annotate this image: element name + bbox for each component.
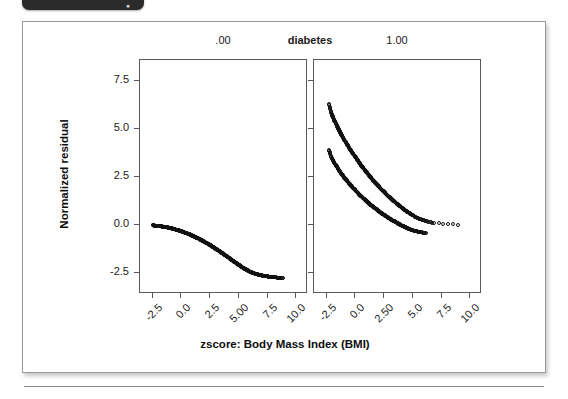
x-tick — [354, 293, 355, 298]
x-tick — [238, 293, 239, 298]
x-tick — [152, 293, 153, 298]
panel-zero — [139, 59, 307, 293]
x-tick — [469, 293, 470, 298]
data-point — [281, 276, 285, 280]
y-tick-label: 5.0 — [95, 121, 129, 133]
x-tick — [180, 293, 181, 298]
data-point — [456, 223, 460, 227]
y-tick-label: 2.5 — [95, 169, 129, 181]
y-tick-label: -2.5 — [95, 265, 129, 277]
data-point — [446, 222, 450, 226]
y-tick-label: 0.0 — [95, 217, 129, 229]
y-tick — [134, 128, 139, 129]
y-tick — [308, 272, 313, 273]
figure-frame: .00-2.50.02.55.07.5-2.50.02.55.007.510.0… — [22, 21, 546, 373]
y-axis-title: Normalized residual — [58, 89, 70, 259]
x-tick — [326, 293, 327, 298]
y-tick — [134, 224, 139, 225]
y-tick — [134, 176, 139, 177]
y-tick — [308, 224, 313, 225]
data-point — [451, 222, 455, 226]
data-point — [432, 221, 436, 225]
x-tick — [295, 293, 296, 298]
data-point — [441, 222, 445, 226]
panel-one — [313, 59, 481, 293]
y-tick — [308, 176, 313, 177]
horizontal-rule — [24, 386, 544, 387]
window-tab[interactable]: ● — [22, 0, 144, 10]
tab-glyph-icon: ● — [126, 2, 130, 9]
y-tick — [134, 272, 139, 273]
data-point — [437, 221, 441, 225]
x-axis-title: zscore: Body Mass Index (BMI) — [23, 338, 547, 350]
data-point — [424, 231, 428, 235]
x-tick — [267, 293, 268, 298]
y-tick — [308, 128, 313, 129]
x-tick — [383, 293, 384, 298]
x-tick — [412, 293, 413, 298]
x-tick — [441, 293, 442, 298]
facet-variable-label: diabetes — [139, 34, 481, 46]
y-tick-label: 7.5 — [95, 73, 129, 85]
scatter-chart: .00-2.50.02.55.07.5-2.50.02.55.007.510.0… — [23, 22, 547, 374]
y-tick — [308, 80, 313, 81]
y-tick — [134, 80, 139, 81]
x-tick — [209, 293, 210, 298]
